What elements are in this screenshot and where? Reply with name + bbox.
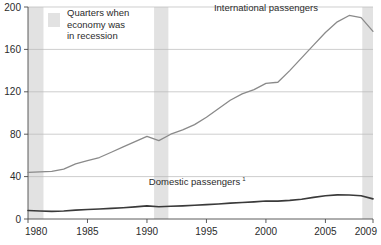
y-tick-label-120: 120 [4,86,21,97]
x-tick-label-1985: 1985 [76,226,99,237]
chart-container: 04080120160200 1980198519901995200020052… [0,0,381,245]
y-tick-label-80: 80 [10,129,22,140]
x-tick-label-1995: 1995 [195,226,218,237]
y-axis-tick-labels: 04080120160200 [4,2,21,225]
recession-band-2 [154,7,168,219]
x-axis-tick-labels: 1980198519901995200020052009 [25,226,377,237]
y-tick-label-40: 40 [10,171,22,182]
legend-swatch-recession [48,13,60,27]
series-label-1: Domestic passengers [149,176,241,187]
x-tick-label-1980: 1980 [25,226,48,237]
recession-band-3 [362,7,373,219]
series-footnote-marker-1: 1 [242,176,246,182]
legend-text-line-1: economy was [67,19,125,30]
y-tick-label-200: 200 [4,2,21,13]
x-tick-label-2009: 2009 [355,226,378,237]
legend-text-line-0: Quarters when [67,7,129,18]
x-tick-label-2000: 2000 [255,226,278,237]
series-line-1 [28,195,373,212]
y-tick-label-0: 0 [15,214,21,225]
y-tick-label-160: 160 [4,44,21,55]
recession-band-1 [28,7,43,219]
legend-text-line-2: in recession [67,30,118,41]
series-label-0: International passengers [214,2,318,13]
series-labels-group: International passengersDomestic passeng… [149,2,318,187]
line-chart: 04080120160200 1980198519901995200020052… [0,0,381,245]
x-tick-label-1990: 1990 [136,226,159,237]
x-tick-label-2005: 2005 [314,226,337,237]
legend: Quarters wheneconomy wasin recession [48,7,129,41]
